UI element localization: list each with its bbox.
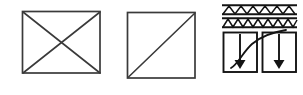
- figure-illustration: [0, 0, 303, 95]
- figure-canvas: Scanned line-art engineering sketch cont…: [0, 0, 303, 95]
